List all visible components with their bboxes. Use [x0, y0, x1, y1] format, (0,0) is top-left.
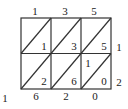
cell-ones-digit: 1 [39, 41, 49, 52]
result-digit: 2 [61, 91, 71, 102]
result-digit: 1 [0, 93, 10, 104]
multiplicand-digit: 1 [30, 6, 40, 17]
result-digit: 6 [31, 91, 41, 102]
cell-tens-digit: 1 [83, 58, 93, 69]
cell-ones-digit: 6 [69, 76, 79, 87]
cell-ones-digit: 0 [99, 76, 109, 87]
multiplicand-digit: 5 [89, 6, 99, 17]
multiplicand-digit: 3 [60, 6, 70, 17]
cell-ones-digit: 2 [39, 76, 49, 87]
cell-ones-digit: 3 [69, 41, 79, 52]
multiplier-digit: 1 [114, 42, 124, 53]
result-digit: 0 [90, 91, 100, 102]
cell-ones-digit: 5 [99, 41, 109, 52]
multiplier-digit: 2 [114, 77, 124, 88]
